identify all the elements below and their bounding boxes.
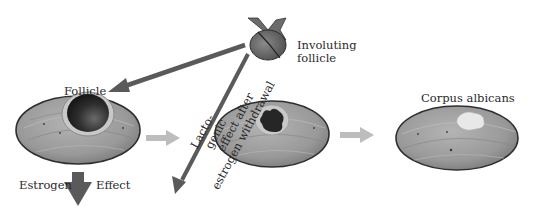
effect-label: Effect	[96, 179, 130, 192]
ovarian-cycle-diagram: Involuting follicle Follicle Estrogen Ef…	[0, 0, 537, 223]
involuting-follicle-label-line2: follicle	[297, 52, 357, 65]
estrogen-label: Estrogen	[19, 179, 72, 192]
involuting-follicle-label: Involuting follicle	[297, 39, 357, 65]
ovary-with-follicle	[16, 92, 140, 164]
follicle-label: Follicle	[64, 85, 106, 98]
diagram-artwork	[0, 0, 537, 223]
light-arrow-1-icon	[146, 130, 180, 146]
ovary-corpus-albicans	[396, 106, 518, 170]
corpus-albicans-label: Corpus albicans	[421, 92, 515, 105]
involuting-follicle-icon	[248, 18, 286, 60]
light-arrow-2-icon	[340, 127, 374, 143]
